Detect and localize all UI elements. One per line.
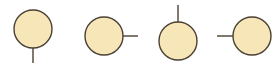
node-circle-3[interactable] [159,22,197,60]
node-group-1[interactable] [14,10,52,63]
node-group-3[interactable] [159,5,197,60]
node-circle-1[interactable] [14,10,52,48]
figure-canvas [0,0,280,70]
node-circle-4[interactable] [233,17,271,55]
node-group-2[interactable] [85,17,138,55]
node-group-4[interactable] [217,17,271,55]
glyph-diagram [0,0,280,70]
node-circle-2[interactable] [85,17,123,55]
